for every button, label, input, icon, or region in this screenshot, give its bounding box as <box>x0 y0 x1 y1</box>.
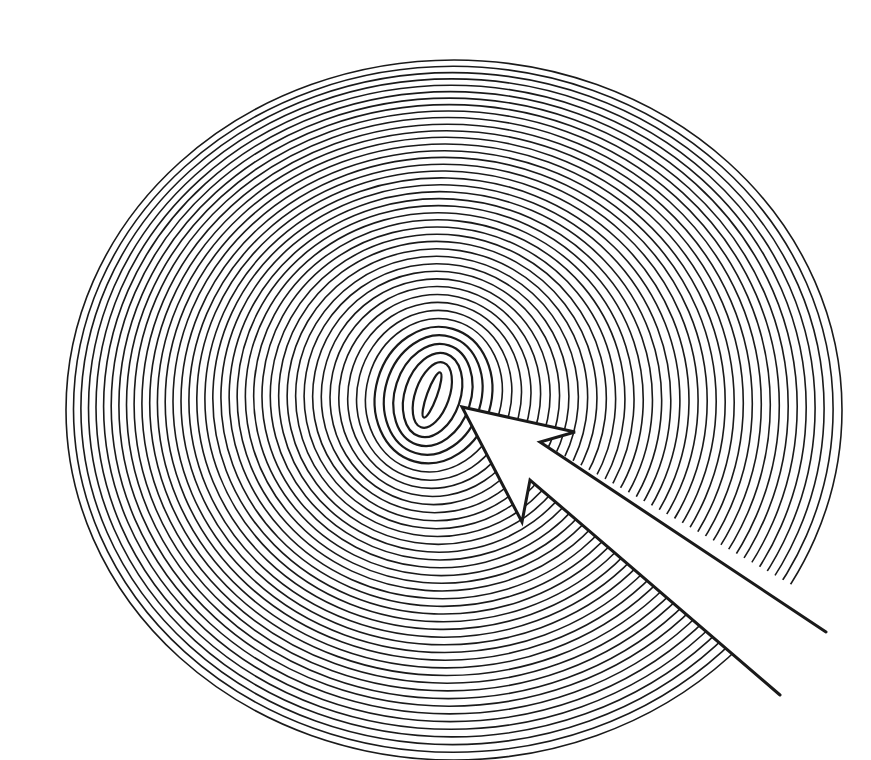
spiral-ring <box>419 371 445 420</box>
spiral-ring <box>104 92 798 722</box>
spiral-ring <box>381 334 485 457</box>
spiral-ring <box>81 73 824 745</box>
spiral-ring <box>200 172 686 627</box>
spiral-ring <box>405 357 460 433</box>
spiral-arrow-graphic <box>0 0 871 760</box>
concentric-spiral-rings <box>66 60 842 760</box>
spiral-arrow-illustration: Spiral of concentric ellipses with an ar… <box>0 0 871 760</box>
spiral-ring <box>243 208 634 587</box>
spiral-ring <box>205 177 678 623</box>
spiral-ring <box>392 345 472 445</box>
spiral-ring <box>181 157 707 644</box>
spiral-ring <box>194 168 692 632</box>
spiral-ring <box>96 85 806 729</box>
spiral-ring <box>74 66 834 752</box>
spiral-ring <box>157 137 734 668</box>
spiral-ring <box>189 164 698 637</box>
